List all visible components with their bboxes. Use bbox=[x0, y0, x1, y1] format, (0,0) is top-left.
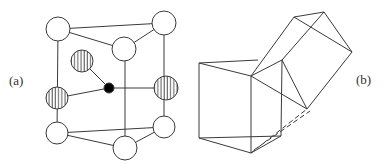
open-atom-icon bbox=[46, 17, 70, 41]
open-atom-icon bbox=[113, 136, 137, 160]
open-atom-icon bbox=[153, 116, 175, 138]
filled-atom-icon bbox=[104, 83, 114, 93]
panel-a-atoms bbox=[46, 11, 178, 160]
striped-atom-icon bbox=[71, 50, 93, 72]
open-atom-icon bbox=[46, 122, 68, 144]
panel-b-polyhedra bbox=[199, 12, 352, 153]
striped-atom-icon bbox=[154, 76, 178, 100]
striped-atom-icon bbox=[46, 87, 68, 109]
diagram-canvas bbox=[0, 0, 388, 164]
open-atom-icon bbox=[152, 11, 176, 35]
open-atom-icon bbox=[112, 37, 136, 61]
